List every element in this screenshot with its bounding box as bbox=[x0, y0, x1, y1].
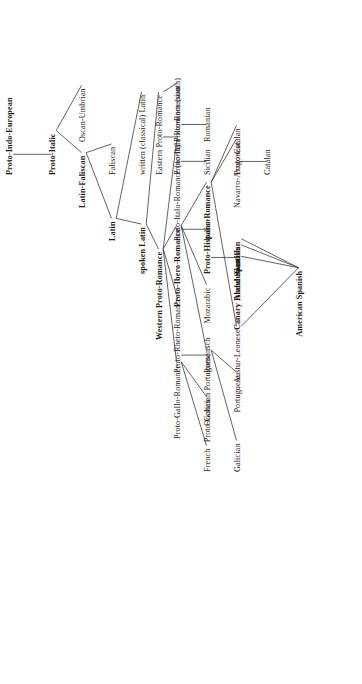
tree-node-navarro: Navarro-Aragonese bbox=[233, 141, 242, 208]
tree-node-austur: Austur-Leonese bbox=[233, 329, 242, 383]
tree-node-catalan: Catalan bbox=[263, 149, 272, 175]
tree-node-amspanish: American Spanish bbox=[295, 270, 304, 336]
tree-node-westpr: Western Proto-Romance bbox=[155, 252, 164, 340]
tree-node-faliscan: Faliscan bbox=[108, 147, 117, 175]
tree-node-pibero: Proto-Ibero-Romance bbox=[173, 228, 182, 307]
tree-node-pgallo: Proto-Gallo-Romance bbox=[173, 365, 182, 439]
tree-node-splatin: spoken Latin bbox=[138, 227, 147, 274]
tree-node-latin: Latin bbox=[108, 221, 117, 241]
tree-edge-splatin-to-westpr bbox=[146, 224, 158, 249]
tree-node-pitalic: Proto-Italic bbox=[48, 133, 57, 175]
tree-node-mozarabic: Mozarabic bbox=[203, 287, 212, 323]
tree-node-prheto: Proto-Rheto-Romance bbox=[173, 297, 182, 373]
tree-node-pgalpor: Proto-Galician Portuguese bbox=[203, 353, 212, 442]
tree-node-romanian: Romanian bbox=[203, 108, 212, 142]
tree-node-sicilian: Sicilian bbox=[203, 149, 212, 175]
tree-node-phispano: Proto-Hispano-Romance bbox=[203, 185, 212, 274]
tree-node-french: French bbox=[203, 449, 212, 472]
language-family-tree: Proto-Indo-EuropeanProto-ItalicOscan-Umb… bbox=[0, 0, 362, 684]
tree-node-eastpr: Eastern Proto-Romance bbox=[155, 95, 164, 175]
tree-node-latfal: Latin-Faliscan bbox=[78, 155, 87, 208]
tree-edge-andalusian-to-amspanish bbox=[241, 256, 298, 267]
tree-node-wclatin: written (classical) Latin bbox=[138, 95, 147, 175]
tree-node-oscan: Oscan-Umbrian bbox=[78, 88, 87, 142]
tree-edge-castilian-to-amspanish bbox=[241, 239, 298, 268]
tree-node-promanian: Proto-Romanian bbox=[173, 86, 182, 142]
label-layer: Proto-Indo-EuropeanProto-ItalicOscan-Umb… bbox=[5, 78, 304, 472]
tree-node-galician: Galician bbox=[233, 443, 242, 472]
tree-edge-austur-to-amspanish bbox=[241, 268, 298, 327]
tree-node-pie: Proto-Indo-European bbox=[5, 97, 14, 175]
tree-edge-canary-to-amspanish bbox=[241, 245, 298, 268]
tree-edge-latin-to-splatin bbox=[116, 218, 141, 224]
tree-node-canary: Canary Island Spanish bbox=[233, 248, 242, 331]
